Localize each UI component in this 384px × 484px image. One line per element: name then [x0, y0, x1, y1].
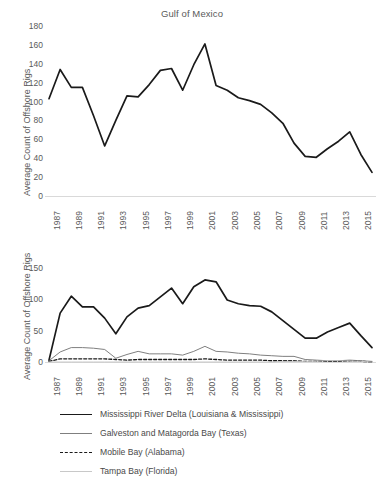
legend-item-4[interactable]: Tampa Bay (Florida)	[60, 461, 380, 480]
legend-line-swatch	[60, 446, 92, 458]
chart-legend: Mississippi River Delta (Louisiana & Mis…	[60, 404, 380, 480]
legend-line-swatch	[60, 465, 92, 477]
legend-item-label: Tampa Bay (Florida)	[100, 466, 177, 476]
legend-line-swatch	[60, 408, 92, 420]
figure-offshore-rigs: Gulf of Mexico Average Count of Offshore…	[0, 0, 384, 484]
legend-item-1[interactable]: Mississippi River Delta (Louisiana & Mis…	[60, 404, 380, 423]
legend-line-swatch	[60, 427, 92, 439]
legend-item-label: Mobile Bay (Alabama)	[100, 447, 185, 457]
legend-item-label: Mississippi River Delta (Louisiana & Mis…	[100, 409, 283, 419]
legend-item-3[interactable]: Mobile Bay (Alabama)	[60, 442, 380, 461]
series-line-1	[49, 280, 372, 360]
legend-item-2[interactable]: Galveston and Matagorda Bay (Texas)	[60, 423, 380, 442]
legend-item-label: Galveston and Matagorda Bay (Texas)	[100, 428, 247, 438]
